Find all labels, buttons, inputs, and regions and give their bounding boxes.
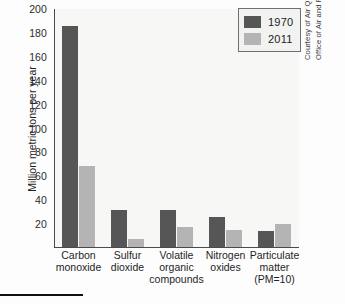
- legend-item-1970: 1970: [244, 13, 293, 30]
- bar-1970: [160, 210, 176, 247]
- attribution-credit: Courtesy of Air Quality Planning and Sta…: [303, 0, 324, 60]
- scan-artifact-line: [0, 294, 83, 296]
- bar-group: [153, 9, 202, 247]
- x-axis-label-line: matter: [243, 262, 306, 274]
- bar-1970: [258, 231, 274, 247]
- credit-line-1: Courtesy of Air Quality Planning and Sta…: [303, 0, 314, 60]
- bar-2011: [79, 166, 95, 247]
- bar-1970: [62, 26, 78, 247]
- bar-chart-figure: 20018016014012010080604020 Million metri…: [0, 0, 345, 304]
- bar-group: [104, 9, 153, 247]
- x-axis-category-labels: CarbonmonoxideSulfurdioxideVolatileorgan…: [54, 250, 304, 302]
- x-axis-label-line: (PM=10): [243, 274, 306, 286]
- legend-label: 2011: [268, 33, 292, 45]
- chart-legend: 19702011: [238, 8, 301, 52]
- y-axis-title: Million metric tons per year: [26, 29, 38, 229]
- y-axis-tick-200: 200: [29, 4, 47, 15]
- bar-2011: [275, 224, 291, 247]
- x-axis-label-line: compounds: [145, 274, 208, 286]
- bar-2011: [226, 230, 242, 247]
- credit-line-2: Office of Air and Radiation, EPA: [314, 0, 325, 60]
- bar-2011: [177, 227, 193, 247]
- x-axis-label-4: Particulatematter(PM=10): [243, 250, 306, 285]
- bar-1970: [209, 217, 225, 247]
- bar-group: [55, 9, 104, 247]
- legend-swatch-icon: [244, 16, 261, 28]
- bar-2011: [128, 239, 144, 247]
- legend-item-2011: 2011: [244, 30, 293, 47]
- bar-1970: [111, 210, 127, 247]
- legend-swatch-icon: [244, 33, 261, 45]
- legend-label: 1970: [268, 16, 293, 28]
